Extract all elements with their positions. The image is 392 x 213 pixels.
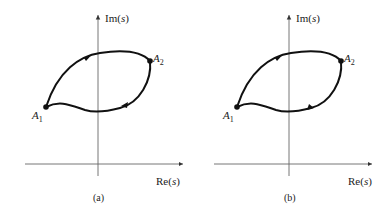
point-a2: [338, 58, 344, 64]
point-a1-label: A1: [31, 109, 43, 124]
point-a2-label: A2: [152, 52, 164, 67]
point-a1-label: A1: [222, 109, 234, 124]
panel-a: A1 A2 Im(s) Re(s) (a): [25, 12, 183, 204]
imag-axis-label: Im(s): [296, 12, 320, 25]
real-axis-label: Re(s): [348, 175, 372, 188]
panel-b: A1 A2 Im(s) Re(s) (b): [214, 12, 372, 204]
point-a1: [234, 104, 240, 110]
point-a2: [147, 58, 153, 64]
contour-diagram: A1 A2 Im(s) Re(s) (a) A1 A2 Im(s) Re(s) …: [0, 0, 392, 213]
imag-axis-label: Im(s): [105, 12, 129, 25]
real-axis-label: Re(s): [156, 175, 180, 188]
panel-caption: (a): [93, 192, 104, 204]
point-a1: [43, 104, 49, 110]
panel-caption: (b): [284, 192, 296, 204]
point-a2-label: A2: [343, 52, 355, 67]
